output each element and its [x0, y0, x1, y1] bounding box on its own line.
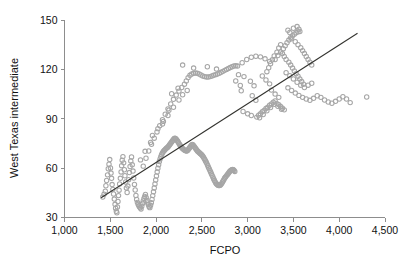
- data-point: [125, 190, 129, 194]
- data-point: [265, 69, 269, 73]
- data-point: [248, 79, 252, 83]
- data-point: [245, 57, 249, 61]
- data-point: [144, 156, 148, 160]
- data-point: [111, 192, 115, 196]
- data-point: [214, 67, 218, 71]
- data-point: [177, 98, 181, 102]
- data-point: [364, 95, 368, 99]
- data-point: [250, 94, 254, 98]
- x-axis-title: FCPO: [210, 244, 241, 256]
- data-point: [277, 95, 281, 99]
- y-tick-label: 150: [40, 14, 58, 26]
- x-axis-tick-labels: 1,0001,5002,0002,5003,0003,5004,0004,500: [51, 224, 398, 236]
- data-point: [104, 184, 108, 188]
- data-point: [310, 81, 314, 85]
- y-axis-title: West Texas intermediate: [8, 58, 20, 178]
- data-point: [116, 193, 120, 197]
- chart-canvas: 306090120150 1,0001,5002,0002,5003,0003,…: [0, 0, 407, 264]
- data-point: [258, 55, 262, 59]
- x-tick-label: 1,500: [97, 224, 123, 236]
- data-point: [242, 74, 246, 78]
- data-point: [252, 84, 256, 88]
- data-point: [116, 199, 120, 203]
- y-tick-label: 30: [46, 211, 58, 223]
- data-point: [240, 61, 244, 65]
- y-axis-ticks: [61, 20, 65, 218]
- data-points: [101, 24, 369, 215]
- x-tick-label: 2,000: [143, 224, 169, 236]
- data-point: [348, 100, 352, 104]
- data-point: [344, 97, 348, 101]
- data-point: [132, 182, 136, 186]
- data-point: [239, 89, 243, 93]
- data-point: [234, 79, 238, 83]
- data-point: [180, 63, 184, 67]
- data-point: [138, 158, 142, 162]
- y-tick-label: 90: [46, 113, 58, 125]
- data-point: [205, 65, 209, 69]
- x-tick-label: 2,500: [189, 224, 215, 236]
- y-tick-label: 60: [46, 162, 58, 174]
- scatter-chart: 306090120150 1,0001,5002,0002,5003,0003,…: [0, 0, 407, 264]
- data-point: [185, 88, 189, 92]
- data-point: [171, 97, 175, 101]
- data-point: [267, 82, 271, 86]
- data-point: [104, 178, 108, 182]
- data-point: [180, 93, 184, 97]
- data-point: [133, 188, 137, 192]
- data-point: [236, 72, 240, 76]
- data-point: [260, 74, 264, 78]
- x-axis-ticks: [65, 218, 386, 222]
- data-point: [171, 105, 175, 109]
- data-point: [169, 92, 173, 96]
- x-tick-label: 4,000: [326, 224, 352, 236]
- plot-area: 306090120150 1,0001,5002,0002,5003,0003,…: [40, 14, 398, 236]
- data-point: [254, 54, 258, 58]
- x-tick-label: 3,000: [235, 224, 261, 236]
- x-tick-label: 3,500: [280, 224, 306, 236]
- data-point: [249, 55, 253, 59]
- y-axis-tick-labels: 306090120150: [40, 14, 58, 224]
- data-point: [110, 182, 114, 186]
- data-point: [273, 92, 277, 96]
- y-tick-label: 120: [40, 63, 58, 75]
- data-point: [123, 174, 127, 178]
- data-point: [167, 108, 171, 112]
- data-point: [241, 109, 245, 113]
- data-point: [109, 176, 113, 180]
- data-point: [263, 57, 267, 61]
- data-point: [117, 188, 121, 192]
- data-point: [291, 77, 295, 81]
- data-point: [118, 176, 122, 180]
- data-point: [264, 78, 268, 82]
- data-point: [238, 83, 242, 87]
- data-point: [141, 164, 145, 168]
- x-tick-label: 4,500: [372, 224, 398, 236]
- data-point: [108, 157, 112, 161]
- data-point: [122, 168, 126, 172]
- data-point: [191, 66, 195, 70]
- x-tick-label: 1,000: [51, 224, 77, 236]
